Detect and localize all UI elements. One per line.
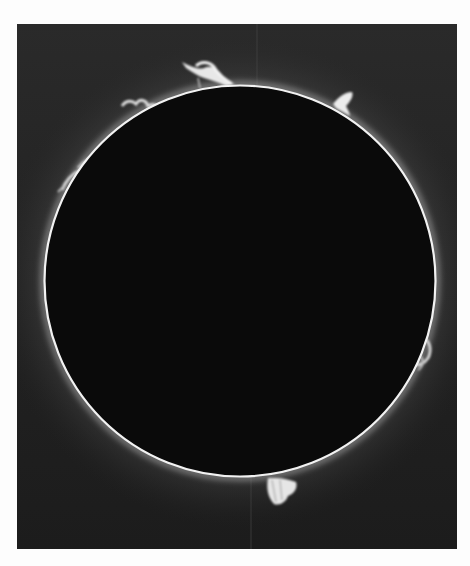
page bbox=[0, 0, 470, 566]
moon-disk bbox=[45, 86, 435, 476]
eclipse-image bbox=[17, 24, 457, 549]
eclipse-photograph bbox=[17, 24, 457, 549]
